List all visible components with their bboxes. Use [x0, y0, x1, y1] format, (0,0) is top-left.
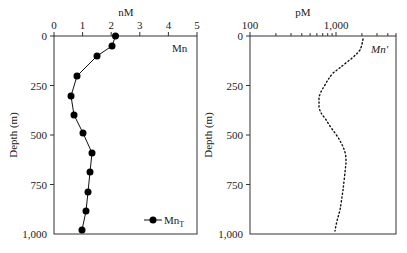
legend-marker-icon: [150, 217, 157, 224]
left-x-tick: 5: [194, 19, 200, 31]
left-x-ticks: 0 1 2 3 4 5: [51, 19, 200, 36]
left-y-tick: 500: [31, 129, 48, 141]
right-y-tick: 750: [227, 179, 244, 191]
left-legend: MnT: [144, 214, 184, 229]
mnt-series-markers: [68, 33, 120, 234]
right-y-tick: 250: [227, 80, 244, 92]
right-y-ticks: 0 250 500 750 1,000: [218, 30, 250, 240]
left-x-tick: 1: [80, 19, 86, 31]
left-x-tick: 2: [108, 19, 114, 31]
right-x-ticks: [250, 32, 396, 36]
right-x-tick: 100: [242, 19, 259, 31]
left-y-tick: 0: [42, 30, 48, 42]
left-y-tick: 750: [31, 179, 48, 191]
right-y-tick: 500: [227, 129, 244, 141]
left-x-tick: 3: [137, 19, 143, 31]
left-x-tick: 0: [51, 19, 57, 31]
right-annotation-mn-prime: Mn': [370, 43, 389, 55]
left-y-ticks: 0 250 500 750 1,000: [22, 30, 54, 240]
right-y-axis-title: Depth (m): [202, 112, 215, 158]
figure: nM 0 1 2 3 4 5 0 250 500 750 1,000: [0, 0, 407, 253]
right-panel: pM 100 1,000 0 250 500: [202, 6, 396, 240]
right-y-tick: 1,000: [218, 228, 243, 240]
right-plot-frame: [250, 36, 396, 234]
left-y-tick: 1,000: [22, 228, 47, 240]
left-y-axis-title: Depth (m): [7, 112, 20, 158]
mnt-series-line: [71, 36, 116, 230]
right-y-tick: 0: [238, 30, 244, 42]
svg-text:MnT: MnT: [164, 214, 184, 229]
left-y-tick: 250: [31, 80, 48, 92]
left-plot-frame: [54, 36, 197, 234]
legend-subscript: T: [179, 220, 184, 229]
right-x-axis-title: pM: [295, 6, 311, 18]
left-annotation-mn: Mn: [172, 42, 188, 54]
legend-label: Mn: [164, 214, 180, 226]
left-panel: nM 0 1 2 3 4 5 0 250 500 750 1,000: [7, 6, 200, 240]
left-x-axis-title: nM: [118, 6, 134, 18]
right-x-tick: 1,000: [324, 19, 349, 31]
mn-prime-series-line: [319, 39, 363, 231]
left-x-tick: 4: [166, 19, 172, 31]
